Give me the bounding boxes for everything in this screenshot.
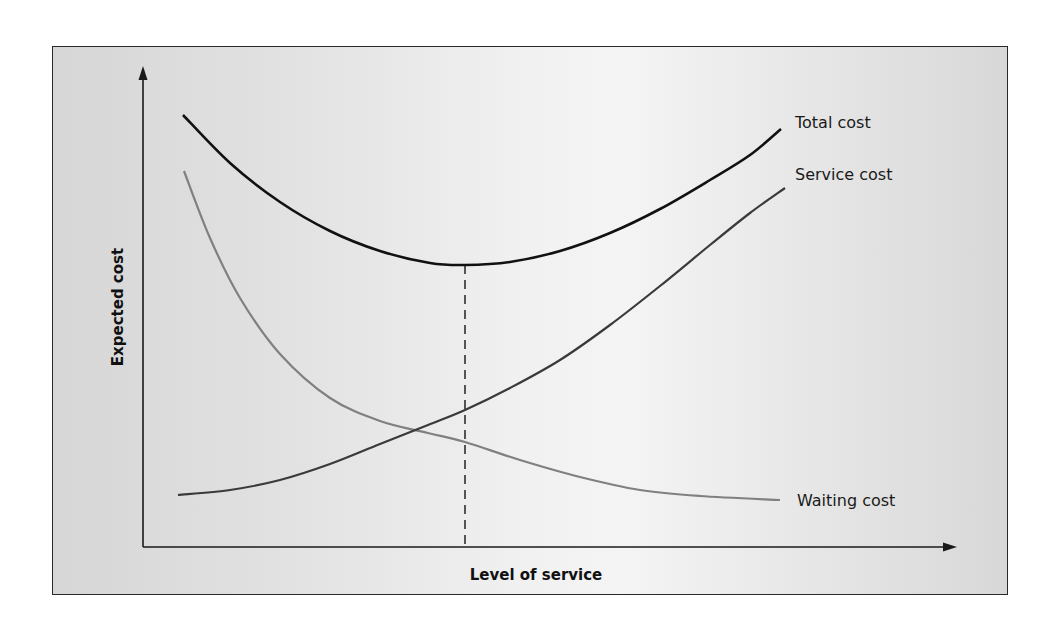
total-cost-label: Total cost (794, 113, 871, 132)
y-axis-arrow-icon (139, 66, 148, 80)
x-axis-arrow-icon (943, 543, 957, 552)
y-axis-label: Expected cost (109, 248, 127, 366)
cost-chart: Total cost Service cost Waiting cost Exp… (0, 0, 1062, 640)
total-cost-curve (183, 115, 781, 265)
waiting-cost-label: Waiting cost (797, 491, 895, 510)
x-axis-label: Level of service (470, 566, 603, 584)
service-cost-label: Service cost (795, 165, 892, 184)
waiting-cost-curve (184, 171, 780, 500)
